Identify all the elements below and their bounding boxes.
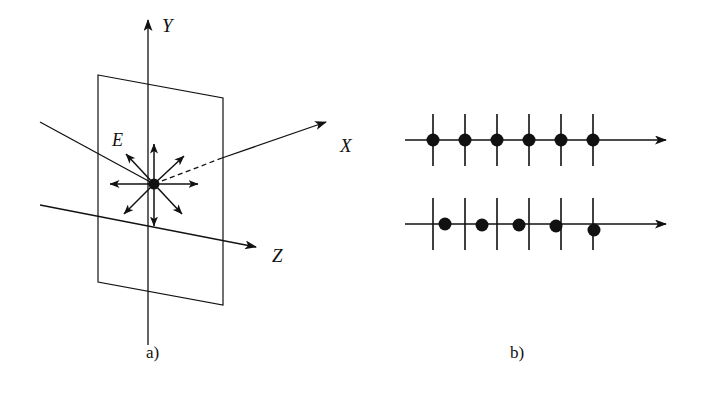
drifting-row (405, 198, 666, 250)
x-axis-line-far (222, 122, 326, 158)
panel-a-caption: a) (146, 343, 159, 362)
e-field-arrow-up-left (126, 154, 154, 184)
physics-figure-svg: Y X Z E a) (0, 0, 703, 404)
panel-b-caption: b) (510, 343, 524, 362)
e-field-arrow-down-left (124, 184, 154, 214)
phase-dot (491, 134, 504, 147)
panel-b: b) (405, 114, 666, 362)
x-axis-label: X (339, 135, 353, 156)
phase-dot (476, 219, 489, 232)
x-axis-line-hidden (154, 158, 222, 184)
phase-dot (587, 134, 600, 147)
panel-a: Y X Z E a) (40, 15, 353, 362)
y-axis-label: Y (162, 15, 175, 36)
origin-point (149, 179, 160, 190)
phase-dot (513, 219, 526, 232)
figure-root: Y X Z E a) (0, 0, 703, 404)
coherent-row (405, 114, 666, 166)
phase-dot (427, 134, 440, 147)
phase-dot (550, 220, 563, 233)
phase-dot (459, 134, 472, 147)
x-axis-line-front (40, 122, 154, 184)
e-field-arrow-down-right (154, 184, 182, 214)
phase-dot (523, 134, 536, 147)
phase-dot (588, 224, 601, 237)
phase-dot (555, 134, 568, 147)
z-axis-label: Z (272, 245, 283, 266)
phase-dot (439, 218, 452, 231)
e-field-label: E (111, 130, 123, 150)
e-field-arrow-up-right (154, 156, 184, 184)
